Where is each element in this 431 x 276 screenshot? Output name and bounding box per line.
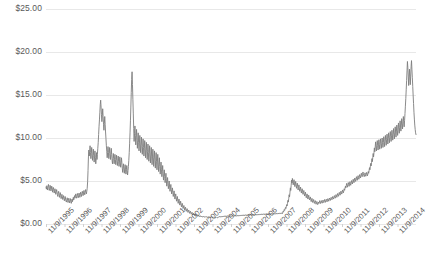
line-chart: $25.00$20.00$15.00$10.00$5.00$0.00 11/9/… bbox=[0, 0, 431, 276]
y-axis-tick-label: $10.00 bbox=[0, 132, 42, 142]
price-series-line bbox=[46, 61, 416, 218]
y-axis-tick-label: $5.00 bbox=[0, 175, 42, 185]
x-axis-labels: 11/9/199511/9/199611/9/199711/9/199811/9… bbox=[0, 0, 431, 50]
y-axis-tick-label: $0.00 bbox=[0, 218, 42, 228]
y-axis-tick-label: $15.00 bbox=[0, 89, 42, 99]
